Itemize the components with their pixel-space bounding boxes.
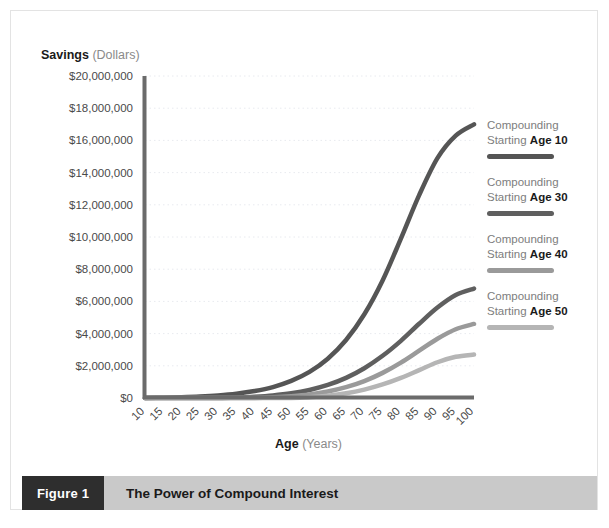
y-tick-label: $2,000,000 (75, 360, 133, 372)
y-tick-label: $6,000,000 (75, 295, 133, 307)
legend-color-swatch (487, 325, 554, 330)
x-tick-label: 50 (275, 405, 293, 423)
legend-label-line2: Starting Age 30 (487, 190, 599, 205)
gridlines-group (145, 76, 474, 366)
x-tick-labels-group: 101520253035404550556065707580859095100 (129, 405, 476, 427)
legend-label-line1: Compounding (487, 232, 599, 247)
y-tick-label: $16,000,000 (69, 134, 133, 146)
x-tick-label: 70 (348, 405, 366, 423)
y-tick-label: $18,000,000 (69, 102, 133, 114)
legend-label-line2: Starting Age 10 (487, 133, 599, 148)
y-tick-label: $10,000,000 (69, 231, 133, 243)
y-tick-label: $14,000,000 (69, 167, 133, 179)
legend-item-label: CompoundingStarting Age 50 (487, 289, 599, 318)
legend-label-age: Age 10 (530, 134, 568, 146)
legend-label-line1: Compounding (487, 118, 599, 133)
x-tick-label: 35 (220, 405, 238, 423)
legend-label-prefix: Starting (487, 305, 530, 317)
x-axis-title-bold: Age (275, 437, 299, 451)
y-tick-label: $0 (120, 392, 133, 404)
legend-label-prefix: Starting (487, 191, 530, 203)
x-tick-label: 15 (147, 405, 165, 423)
y-tick-label: $4,000,000 (75, 328, 133, 340)
figure-container: Savings (Dollars) $0$2,000,000$4,000,000… (0, 0, 609, 528)
figure-caption-text: The Power of Compound Interest (104, 476, 597, 510)
figure-caption-bar: Figure 1 The Power of Compound Interest (22, 476, 597, 510)
legend-item: CompoundingStarting Age 40 (487, 232, 599, 273)
x-tick-label: 85 (403, 405, 421, 423)
y-tick-label: $8,000,000 (75, 263, 133, 275)
x-tick-label: 55 (293, 405, 311, 423)
series-line (145, 124, 474, 398)
chart-legend: CompoundingStarting Age 10CompoundingSta… (487, 118, 599, 346)
legend-item: CompoundingStarting Age 30 (487, 175, 599, 216)
x-tick-label: 40 (239, 405, 257, 423)
series-curves-group (145, 124, 474, 398)
x-axis-title-rest: (Years) (299, 437, 342, 451)
legend-label-age: Age 30 (530, 191, 568, 203)
series-line (145, 289, 474, 399)
legend-label-prefix: Starting (487, 134, 530, 146)
x-tick-label: 60 (312, 405, 330, 423)
legend-label-line1: Compounding (487, 175, 599, 190)
legend-label-line1: Compounding (487, 289, 599, 304)
x-tick-label: 10 (129, 405, 147, 423)
legend-label-line2: Starting Age 40 (487, 247, 599, 262)
legend-item-label: CompoundingStarting Age 40 (487, 232, 599, 261)
figure-number-tag: Figure 1 (22, 476, 104, 510)
legend-label-line2: Starting Age 50 (487, 304, 599, 319)
chart-area: Savings (Dollars) $0$2,000,000$4,000,000… (0, 0, 609, 462)
legend-item-label: CompoundingStarting Age 10 (487, 118, 599, 147)
x-axis-title: Age (Years) (143, 437, 474, 451)
legend-color-swatch (487, 154, 554, 159)
y-tick-label: $20,000,000 (69, 70, 133, 82)
x-tick-label: 65 (330, 405, 348, 423)
x-tick-label: 80 (385, 405, 403, 423)
series-line (145, 324, 474, 398)
legend-item: CompoundingStarting Age 50 (487, 289, 599, 330)
x-tick-label: 30 (202, 405, 220, 423)
legend-label-age: Age 40 (530, 248, 568, 260)
legend-color-swatch (487, 268, 554, 273)
x-tick-label: 25 (184, 405, 202, 423)
x-tick-label: 90 (421, 405, 439, 423)
legend-label-prefix: Starting (487, 248, 530, 260)
x-tick-label: 100 (453, 405, 475, 427)
x-tick-label: 45 (257, 405, 275, 423)
legend-label-age: Age 50 (530, 305, 568, 317)
y-tick-labels-group: $0$2,000,000$4,000,000$6,000,000$8,000,0… (69, 70, 133, 404)
x-tick-label: 75 (366, 405, 384, 423)
x-tick-label: 20 (165, 405, 183, 423)
y-tick-label: $12,000,000 (69, 199, 133, 211)
legend-item-label: CompoundingStarting Age 30 (487, 175, 599, 204)
legend-color-swatch (487, 211, 554, 216)
legend-item: CompoundingStarting Age 10 (487, 118, 599, 159)
